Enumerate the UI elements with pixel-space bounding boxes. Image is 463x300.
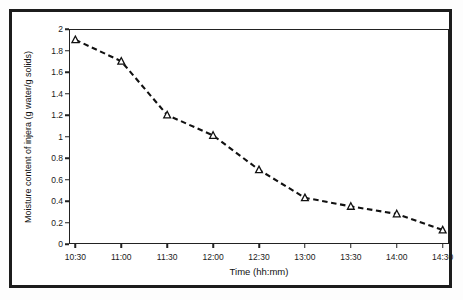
x-tick-label: 12:30 bbox=[248, 253, 269, 262]
y-tick-label: 1.2 bbox=[19, 111, 63, 120]
y-tick-label: 0.4 bbox=[19, 197, 63, 206]
x-tick-label: 13:00 bbox=[294, 253, 315, 262]
figure-frame: Moisture content of injera (g water/g so… bbox=[9, 9, 452, 288]
y-tick-label: 0.6 bbox=[19, 175, 63, 184]
y-tick-label: 1.6 bbox=[19, 68, 63, 77]
x-tick-mark bbox=[258, 244, 260, 248]
x-tick-mark bbox=[396, 244, 398, 248]
x-tick-label: 12:00 bbox=[202, 253, 223, 262]
x-tick-label: 14:00 bbox=[386, 253, 407, 262]
x-tick-mark bbox=[304, 244, 306, 248]
y-tick-label: 0.2 bbox=[19, 218, 63, 227]
y-tick-label: 0.8 bbox=[19, 154, 63, 163]
x-tick-label: 13:30 bbox=[340, 253, 361, 262]
y-tick-label: 1 bbox=[19, 132, 63, 141]
chart-screenshot: Moisture content of injera (g water/g so… bbox=[0, 0, 463, 300]
y-tick-label: 1.8 bbox=[19, 46, 63, 55]
y-tick-label: 1.4 bbox=[19, 89, 63, 98]
x-tick-mark bbox=[75, 244, 77, 248]
x-tick-mark bbox=[166, 244, 168, 248]
x-tick-label: 11:00 bbox=[111, 253, 132, 262]
x-tick-mark bbox=[350, 244, 352, 248]
x-axis-title: Time (hh:mm) bbox=[69, 267, 449, 277]
x-tick-mark bbox=[442, 244, 444, 248]
x-tick-label: 14:30 bbox=[432, 253, 453, 262]
plot-area bbox=[69, 29, 449, 244]
x-tick-label: 11:30 bbox=[157, 253, 178, 262]
y-tick-label: 0 bbox=[19, 240, 63, 249]
x-tick-mark bbox=[121, 244, 123, 248]
chart-area: Moisture content of injera (g water/g so… bbox=[12, 12, 455, 291]
x-tick-mark bbox=[212, 244, 214, 248]
y-tick-label: 2 bbox=[19, 25, 63, 34]
x-tick-label: 10:30 bbox=[65, 253, 86, 262]
